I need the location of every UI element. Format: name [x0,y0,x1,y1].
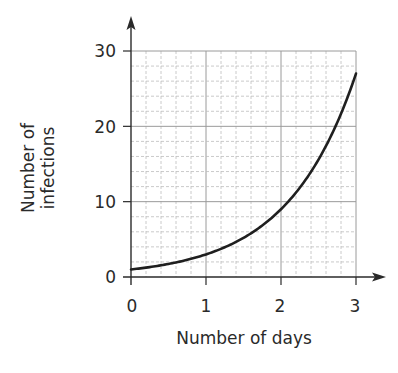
chart-canvas [0,0,398,373]
grid [131,51,356,277]
y-axis-title-line2: infections [38,88,58,248]
y-axis-title-line1: Number of [18,88,38,248]
y-tick-30: 30 [76,41,116,61]
y-axis-title: Number of infections [18,88,58,248]
x-axis-title: Number of days [131,328,357,348]
x-tick-2: 2 [265,296,295,316]
y-tick-10: 10 [76,192,116,212]
y-tick-20: 20 [76,117,116,137]
y-tick-0: 0 [76,267,116,287]
x-tick-1: 1 [191,296,221,316]
axes [123,16,386,285]
x-tick-0: 0 [117,296,147,316]
x-tick-3: 3 [340,296,370,316]
